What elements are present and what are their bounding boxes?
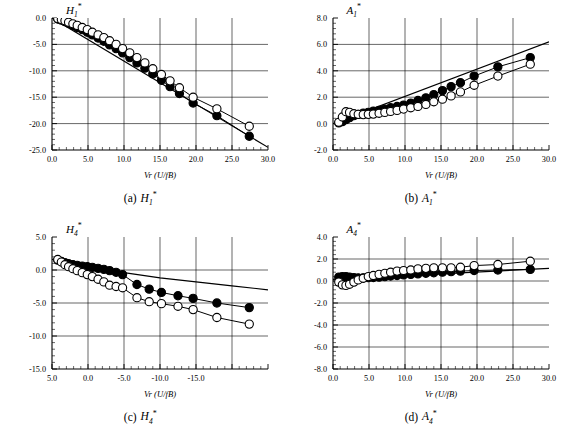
panel-d-caption-label: (d)	[405, 410, 418, 422]
svg-text:-10.0: -10.0	[29, 332, 46, 341]
svg-text:-10.0: -10.0	[151, 374, 168, 383]
svg-text:4.0: 4.0	[316, 67, 326, 76]
panel-c-caption-sup: *	[153, 409, 157, 418]
svg-text:0.0: 0.0	[83, 374, 93, 383]
svg-text:20.0: 20.0	[469, 155, 483, 164]
panel-b-svg: 0.05.010.015.020.025.030.08.06.04.02.00.…	[281, 0, 561, 195]
panel-b-caption-label: (b)	[405, 192, 418, 204]
figure-flutter-derivatives: H1* 0.05.010.015.020.025.030.00.0-5.0-10…	[0, 0, 561, 437]
panel-c-svg: 5.00.0-5.0-10.0-15.05.00.0-5.0-10.0-15.0…	[0, 219, 280, 414]
svg-text:-5.0: -5.0	[118, 374, 131, 383]
panel-d-caption: (d)A4*	[281, 409, 561, 426]
svg-text:8.0: 8.0	[316, 14, 326, 23]
svg-text:0.0: 0.0	[327, 374, 337, 383]
panel-c-caption: (c)H4*	[0, 409, 281, 426]
panel-a-caption-sub: 1	[149, 198, 153, 207]
svg-text:Vr (U/fB): Vr (U/fB)	[144, 389, 176, 399]
svg-text:Vr (U/fB): Vr (U/fB)	[144, 170, 176, 180]
panel-b-plot-area: 0.05.010.015.020.025.030.08.06.04.02.00.…	[281, 0, 561, 195]
svg-text:-10.0: -10.0	[29, 67, 46, 76]
svg-text:25.0: 25.0	[505, 155, 519, 164]
svg-text:0.0: 0.0	[327, 155, 337, 164]
svg-text:20.0: 20.0	[189, 155, 203, 164]
svg-text:0.0: 0.0	[36, 266, 46, 275]
panel-c-caption-label: (c)	[124, 410, 137, 422]
svg-text:0.0: 0.0	[316, 120, 326, 129]
svg-text:20.0: 20.0	[469, 374, 483, 383]
svg-text:15.0: 15.0	[433, 155, 447, 164]
panel-a-svg: 0.05.010.015.020.025.030.00.0-5.0-10.0-1…	[0, 0, 280, 195]
svg-text:5.0: 5.0	[36, 233, 46, 242]
panel-b-caption: (b)A1*	[281, 190, 561, 207]
svg-text:30.0: 30.0	[541, 374, 555, 383]
panel-d-svg: 0.05.010.015.020.025.030.04.02.00.0-2.0-…	[281, 219, 561, 414]
svg-text:-20.0: -20.0	[29, 120, 46, 129]
svg-text:15.0: 15.0	[433, 374, 447, 383]
panel-a-caption-sup: *	[153, 190, 157, 199]
svg-text:5.0: 5.0	[363, 374, 373, 383]
svg-text:25.0: 25.0	[505, 374, 519, 383]
svg-text:0.0: 0.0	[316, 277, 326, 286]
panel-a-caption-label: (a)	[124, 192, 137, 204]
svg-text:Vr (U/fB): Vr (U/fB)	[424, 389, 456, 399]
svg-text:-4.0: -4.0	[314, 321, 327, 330]
svg-text:30.0: 30.0	[261, 155, 275, 164]
svg-text:25.0: 25.0	[225, 155, 239, 164]
svg-text:-15.0: -15.0	[187, 374, 204, 383]
svg-text:-8.0: -8.0	[314, 365, 327, 374]
panel-d-caption-sup: *	[433, 409, 437, 418]
svg-text:4.0: 4.0	[316, 233, 326, 242]
panel-a-caption-symbol: H	[141, 192, 149, 204]
svg-text:5.0: 5.0	[47, 374, 57, 383]
svg-text:-2.0: -2.0	[314, 299, 327, 308]
panel-d: A4* 0.05.010.015.020.025.030.04.02.00.0-…	[281, 219, 561, 437]
svg-text:-15.0: -15.0	[29, 93, 46, 102]
svg-text:-25.0: -25.0	[29, 146, 46, 155]
svg-text:0.0: 0.0	[47, 155, 57, 164]
svg-text:2.0: 2.0	[316, 93, 326, 102]
svg-text:10.0: 10.0	[117, 155, 131, 164]
svg-text:-5.0: -5.0	[33, 40, 46, 49]
svg-text:Vr (U/fB): Vr (U/fB)	[424, 170, 456, 180]
panel-b: A1* 0.05.010.015.020.025.030.08.06.04.02…	[281, 0, 561, 219]
svg-text:30.0: 30.0	[541, 155, 555, 164]
panel-a-caption: (a)H1*	[0, 190, 281, 207]
panel-c-caption-symbol: H	[141, 410, 149, 422]
panel-c: H4* 5.00.0-5.0-10.0-15.05.00.0-5.0-10.0-…	[0, 219, 281, 437]
svg-text:10.0: 10.0	[397, 374, 411, 383]
svg-text:-2.0: -2.0	[314, 146, 327, 155]
svg-text:10.0: 10.0	[397, 155, 411, 164]
svg-text:5.0: 5.0	[363, 155, 373, 164]
svg-text:2.0: 2.0	[316, 255, 326, 264]
panel-b-caption-sub: 1	[429, 198, 433, 207]
panel-b-caption-sup: *	[433, 190, 437, 199]
panel-d-plot-area: 0.05.010.015.020.025.030.04.02.00.0-2.0-…	[281, 219, 561, 414]
svg-text:15.0: 15.0	[153, 155, 167, 164]
svg-text:-15.0: -15.0	[29, 365, 46, 374]
svg-text:6.0: 6.0	[316, 40, 326, 49]
panel-a: H1* 0.05.010.015.020.025.030.00.0-5.0-10…	[0, 0, 281, 219]
svg-text:5.0: 5.0	[83, 155, 93, 164]
panel-c-plot-area: 5.00.0-5.0-10.0-15.05.00.0-5.0-10.0-15.0…	[0, 219, 280, 414]
svg-text:0.0: 0.0	[36, 14, 46, 23]
panel-a-plot-area: 0.05.010.015.020.025.030.00.0-5.0-10.0-1…	[0, 0, 280, 195]
svg-text:-5.0: -5.0	[33, 299, 46, 308]
svg-text:-6.0: -6.0	[314, 343, 327, 352]
